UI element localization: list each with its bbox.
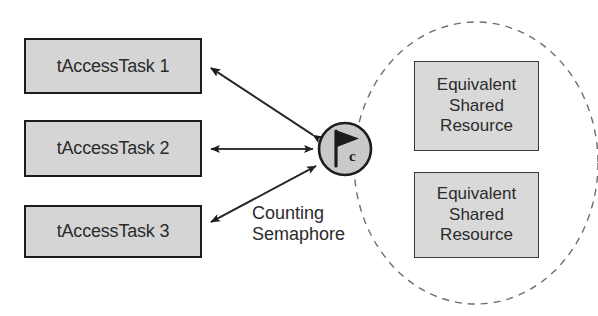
- task-3-label: tAccessTask 3: [57, 221, 169, 242]
- task-box-3[interactable]: tAccessTask 3: [24, 205, 202, 258]
- task-2-label: tAccessTask 2: [57, 138, 169, 159]
- diagram-canvas: tAccessTask 1 tAccessTask 2 tAccessTask …: [0, 0, 598, 316]
- resource-2-line-1: Equivalent: [437, 184, 516, 205]
- shared-resource-box-1[interactable]: Equivalent Shared Resource: [414, 61, 539, 151]
- task-1-label: tAccessTask 1: [57, 56, 169, 77]
- task-box-2[interactable]: tAccessTask 2: [24, 120, 202, 177]
- task-box-1[interactable]: tAccessTask 1: [24, 38, 202, 94]
- semaphore-subscript-c: c: [349, 148, 356, 165]
- resource-1-line-1: Equivalent: [437, 75, 516, 96]
- connector-task-1-b: [211, 68, 313, 135]
- resource-2-line-2: Shared: [449, 205, 504, 226]
- shared-resource-box-2[interactable]: Equivalent Shared Resource: [414, 172, 539, 258]
- semaphore-caption: Counting Semaphore: [252, 203, 376, 245]
- resource-1-line-2: Shared: [449, 96, 504, 117]
- resource-1-line-3: Resource: [440, 116, 513, 137]
- semaphore-caption-line-2: Semaphore: [252, 224, 376, 245]
- semaphore-node[interactable]: [319, 123, 371, 175]
- resource-2-line-3: Resource: [440, 225, 513, 246]
- semaphore-caption-line-1: Counting: [252, 203, 376, 224]
